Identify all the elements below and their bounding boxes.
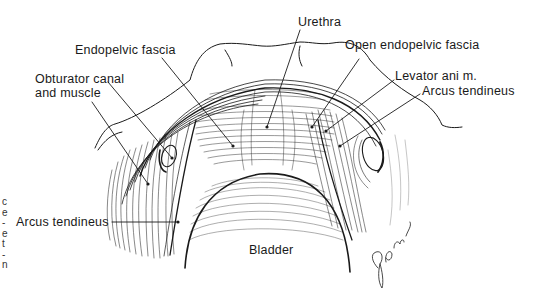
left-arcus-line bbox=[170, 120, 196, 255]
bladder-dome bbox=[185, 174, 350, 272]
pubic-bone-outline bbox=[95, 42, 462, 150]
leader-lines bbox=[92, 30, 420, 222]
label-arcus-tendineus-left: Arcus tendineus bbox=[16, 215, 109, 229]
cropped-caption-fragments: c e - e t - n bbox=[2, 197, 8, 271]
artist-signature bbox=[372, 222, 410, 288]
label-levator-ani: Levator ani m. bbox=[395, 69, 477, 83]
left-sidewall-muscle bbox=[107, 132, 178, 258]
label-obturator-canal: Obturator canal bbox=[35, 72, 124, 86]
label-arcus-tendineus-right: Arcus tendineus bbox=[422, 84, 515, 98]
label-and-muscle: and muscle bbox=[35, 86, 101, 100]
label-open-endopelvic-fascia: Open endopelvic fascia bbox=[345, 38, 479, 52]
left-obturator-canal bbox=[159, 143, 179, 172]
anatomical-figure: Endopelvic fascia Obturator canal and mu… bbox=[0, 0, 533, 302]
leader-dots bbox=[146, 125, 341, 223]
label-bladder: Bladder bbox=[249, 243, 294, 257]
label-urethra: Urethra bbox=[298, 15, 341, 29]
label-endopelvic-fascia: Endopelvic fascia bbox=[75, 43, 176, 57]
right-obturator-canal bbox=[353, 135, 387, 188]
